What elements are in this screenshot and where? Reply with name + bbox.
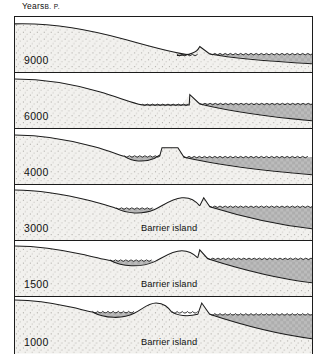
- year-label: 3000: [24, 222, 49, 234]
- year-label: 1000: [24, 336, 49, 348]
- year-label: 4000: [24, 166, 49, 178]
- axis-title: Y YearsB. P.: [22, 1, 60, 12]
- axis-title-bp: B. P.: [44, 3, 59, 10]
- cross-section-panel: 9000: [15, 17, 312, 73]
- cross-section-panel: 4000: [15, 129, 312, 185]
- panel-graphic: [15, 73, 312, 128]
- panel-graphic: [15, 17, 312, 72]
- year-label: 9000: [24, 54, 49, 66]
- figure-container: Y YearsB. P.: [0, 0, 327, 358]
- year-label: 1500: [24, 278, 49, 290]
- barrier-island-label: Barrier island: [141, 223, 197, 233]
- year-label: 6000: [24, 110, 49, 122]
- cross-section-panel: 1500 Barrier island: [15, 241, 312, 297]
- panel-graphic: [15, 129, 312, 184]
- barrier-island-label: Barrier island: [141, 279, 197, 289]
- axis-title-years: Years: [22, 1, 44, 11]
- cross-section-panel: 3000 Barrier island: [15, 185, 312, 241]
- barrier-island-label: Barrier island: [141, 337, 197, 347]
- panel-stack: 9000 6000: [14, 16, 313, 354]
- cross-section-panel: 1000 Barrier island: [15, 297, 312, 354]
- cross-section-panel: 6000: [15, 73, 312, 129]
